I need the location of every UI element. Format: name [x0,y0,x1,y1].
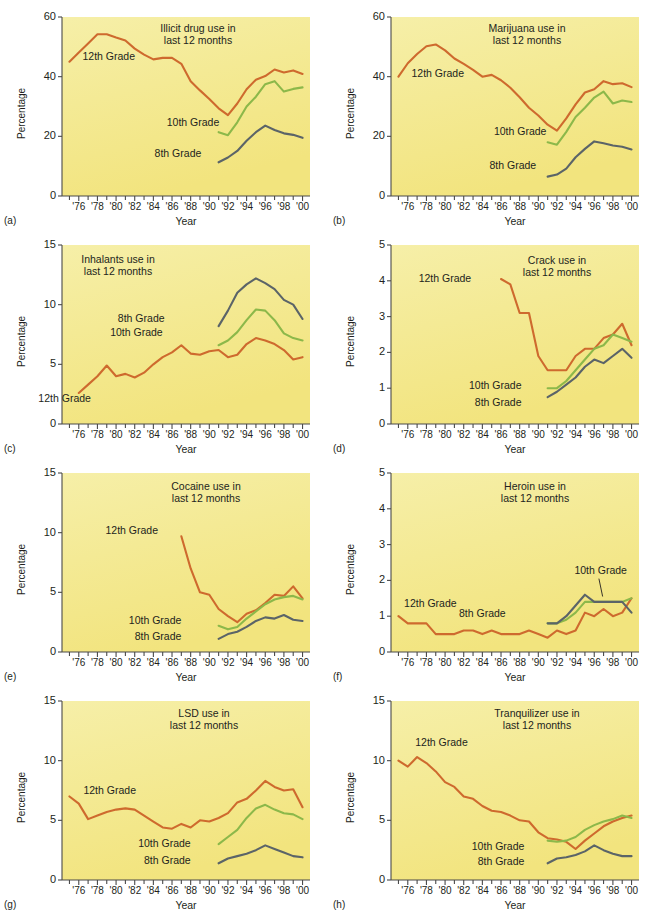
y-tick-label: 0 [351,417,385,429]
y-tick-label: 15 [22,694,56,706]
x-tick-label: '00 [291,429,315,440]
chart-panel-c: 051015Percentage'76'78'80'82'84'86'88'90… [0,228,329,456]
figure-panel-grid: 0204060Percentage'76'78'80'82'84'86'88'9… [0,0,658,913]
x-tick-label: '00 [620,429,644,440]
y-axis-title: Percentage [345,315,356,366]
y-tick-label: 0 [351,873,385,885]
series-label-12th-grade: 12th Grade [105,524,158,536]
panel-title-line2: last 12 months [143,34,253,46]
panel-title-line1: Heroin use in [480,480,590,492]
panel-title-line2: last 12 months [63,265,173,277]
panel-title: Illicit drug use inlast 12 months [143,22,253,46]
x-axis-title: Year [485,215,545,227]
x-axis-title: Year [156,899,216,911]
panel-title: LSD use inlast 12 months [149,707,259,731]
panel-title-line1: Tranquilizer use in [482,707,592,719]
y-tick-label: 40 [22,70,56,82]
y-tick-label: 5 [22,813,56,825]
panel-title-line1: Crack use in [502,254,612,266]
series-label-10th-grade: 10th Grade [469,379,522,391]
series-label-10th-grade: 10th Grade [110,326,163,338]
x-tick-label: '00 [620,201,644,212]
y-tick-label: 15 [22,238,56,250]
panel-title-line2: last 12 months [472,34,582,46]
series-label-12th-grade: 12th Grade [83,50,136,62]
series-label-8th-grade: 8th Grade [155,147,202,159]
y-tick-label: 1 [351,381,385,393]
y-tick-label: 5 [22,357,56,369]
panel-title-line1: Illicit drug use in [143,22,253,34]
y-tick-label: 60 [351,10,385,22]
chart-panel-h: 051015Percentage'76'78'80'82'84'86'88'90… [329,684,658,912]
y-tick-label: 0 [351,645,385,657]
y-tick-label: 10 [22,298,56,310]
y-tick-label: 15 [351,694,385,706]
series-label-8th-grade: 8th Grade [478,855,525,867]
panel-letter: (c) [4,443,16,454]
series-label-8th-grade: 8th Grade [489,159,536,171]
panel-title-line2: last 12 months [482,719,592,731]
series-label-8th-grade: 8th Grade [118,312,165,324]
y-axis-title: Percentage [345,771,356,822]
series-label-12th-grade: 12th Grade [83,784,136,796]
panel-letter: (a) [4,215,16,226]
x-axis-title: Year [485,671,545,683]
x-tick-label: '00 [620,885,644,896]
panel-title: Cocaine use inlast 12 months [151,480,261,504]
series-label-8th-grade: 8th Grade [144,854,191,866]
series-label-12th-grade: 12th Grade [412,67,465,79]
panel-title-line1: Cocaine use in [151,480,261,492]
panel-title: Tranquilizer use inlast 12 months [482,707,592,731]
x-tick-label: '00 [291,201,315,212]
y-tick-label: 1 [351,609,385,621]
series-label-10th-grade: 10th Grade [494,125,547,137]
x-tick-label: '00 [291,885,315,896]
series-label-10th-grade: 10th Grade [472,840,525,852]
y-tick-label: 3 [351,538,385,550]
panel-title: Heroin use inlast 12 months [480,480,590,504]
panel-title: Inhalants use inlast 12 months [63,253,173,277]
chart-panel-f: 012345Percentage'76'78'80'82'84'86'88'90… [329,456,658,684]
panel-letter: (g) [4,899,16,910]
y-tick-label: 0 [22,873,56,885]
series-label-12th-grade: 12th Grade [419,272,472,284]
y-axis-title: Percentage [16,87,27,138]
series-label-8th-grade: 8th Grade [459,607,506,619]
y-tick-label: 20 [351,129,385,141]
x-tick-label: '00 [291,657,315,668]
panel-title: Marijuana use inlast 12 months [472,22,582,46]
panel-title-line1: Marijuana use in [472,22,582,34]
x-axis-title: Year [156,443,216,455]
y-tick-label: 4 [351,502,385,514]
panel-letter: (b) [333,215,345,226]
series-label-10th-grade: 10th Grade [167,116,220,128]
x-axis-title: Year [485,899,545,911]
y-tick-label: 10 [351,754,385,766]
series-label-10th-grade: 10th Grade [138,837,191,849]
panel-title: Crack use inlast 12 months [502,254,612,278]
chart-panel-e: 051015Percentage'76'78'80'82'84'86'88'90… [0,456,329,684]
panel-title-line1: LSD use in [149,707,259,719]
y-tick-label: 3 [351,310,385,322]
x-axis-title: Year [156,215,216,227]
y-tick-label: 0 [22,189,56,201]
y-tick-label: 40 [351,70,385,82]
chart-panel-a: 0204060Percentage'76'78'80'82'84'86'88'9… [0,0,329,228]
panel-title-line2: last 12 months [149,719,259,731]
x-axis-title: Year [156,671,216,683]
y-tick-label: 5 [351,238,385,250]
series-label-12th-grade: 12th Grade [404,597,457,609]
series-label-8th-grade: 8th Grade [135,630,182,642]
chart-panel-b: 0204060Percentage'76'78'80'82'84'86'88'9… [329,0,658,228]
chart-panel-d: 012345Percentage'76'78'80'82'84'86'88'90… [329,228,658,456]
y-tick-label: 0 [22,645,56,657]
y-tick-label: 5 [351,813,385,825]
panel-letter: (e) [4,671,16,682]
x-axis-title: Year [485,443,545,455]
panel-title-line1: Inhalants use in [63,253,173,265]
y-axis-title: Percentage [345,87,356,138]
y-axis-title: Percentage [345,543,356,594]
x-tick-label: '00 [620,657,644,668]
y-tick-label: 20 [22,129,56,141]
y-tick-label: 60 [22,10,56,22]
